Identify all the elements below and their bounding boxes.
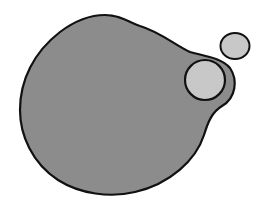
inner-circle (185, 60, 225, 100)
blob-diagram (0, 0, 267, 207)
small-circle (221, 33, 250, 59)
main-blob (20, 15, 235, 195)
diagram-canvas (0, 0, 267, 207)
